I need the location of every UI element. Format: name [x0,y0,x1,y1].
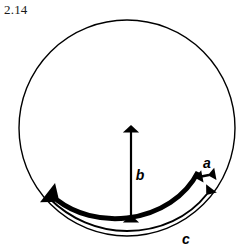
figure-container: 2.14 [0,0,246,251]
outer-circle [19,20,235,236]
label-c: c [182,231,190,247]
figure-drawing: a b c [0,0,246,251]
label-b: b [136,167,145,183]
label-a: a [203,155,211,171]
thick-arc-arrow [57,172,198,219]
thin-arc-arrow-c [49,194,207,231]
